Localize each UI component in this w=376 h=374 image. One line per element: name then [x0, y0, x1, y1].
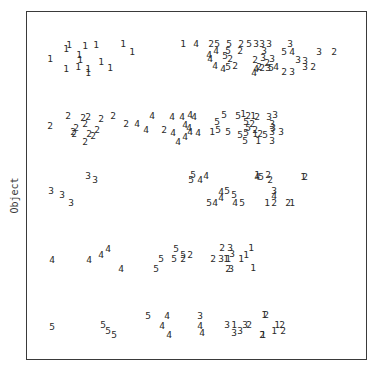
data-point-row-1: 3 [253, 39, 259, 49]
data-point-row-5: 3 [224, 320, 230, 330]
data-point-row-2: 4 [195, 128, 201, 138]
data-point-row-1: 3 [295, 55, 301, 65]
data-point-row-1: 3 [316, 47, 322, 57]
data-point-row-1: 2 [331, 47, 337, 57]
data-point-row-1: 2 [310, 62, 316, 72]
data-point-row-2: 2 [254, 112, 260, 122]
data-point-row-3: 3 [48, 186, 54, 196]
data-point-row-3: 5 [188, 175, 194, 185]
data-point-row-5: 5 [49, 322, 55, 332]
data-point-row-2: 2 [71, 129, 77, 139]
data-point-row-5: 1 [271, 326, 277, 336]
data-point-row-1: 3 [266, 39, 272, 49]
data-point-row-1: 1 [107, 63, 113, 73]
data-point-row-4: 5 [158, 254, 164, 264]
data-point-row-3: 2 [271, 198, 277, 208]
data-point-row-4: 2 [210, 254, 216, 264]
data-point-row-1: 2 [232, 61, 238, 71]
data-point-row-2: 5 [262, 130, 268, 140]
data-point-row-4: 4 [105, 244, 111, 254]
data-point-row-1: 1 [47, 54, 53, 64]
data-point-row-4: 4 [98, 250, 104, 260]
data-point-row-2: 1 [209, 127, 215, 137]
data-point-row-5: 5 [145, 311, 151, 321]
data-point-row-5: 2 [246, 320, 252, 330]
data-point-row-4: 1 [250, 263, 256, 273]
data-point-row-2: 2 [94, 125, 100, 135]
data-point-row-2: 5 [242, 136, 248, 146]
data-point-row-3: 5 [239, 198, 245, 208]
data-point-row-2: 2 [123, 119, 129, 129]
data-point-row-1: 4 [273, 62, 279, 72]
data-point-row-1: 1 [82, 41, 88, 51]
data-point-row-1: 2 [281, 67, 287, 77]
data-point-row-1: 1 [63, 64, 69, 74]
y-axis-label: Object [9, 166, 20, 226]
data-point-row-1: 3 [302, 62, 308, 72]
data-point-row-5: 5 [105, 326, 111, 336]
data-point-row-1: 1 [93, 40, 99, 50]
data-point-row-4: 3 [228, 264, 234, 274]
data-point-row-3: 5 [258, 172, 264, 182]
data-point-row-1: 4 [193, 39, 199, 49]
data-point-row-3: 1 [289, 198, 295, 208]
data-point-row-3: 3 [59, 190, 65, 200]
data-point-row-3: 3 [85, 171, 91, 181]
data-point-row-3: 2 [302, 172, 308, 182]
data-point-row-1: 4 [289, 47, 295, 57]
data-point-row-3: 1 [264, 198, 270, 208]
data-point-row-2: 2 [47, 121, 53, 131]
data-point-row-3: 3 [68, 198, 74, 208]
data-point-row-3: 4 [232, 198, 238, 208]
data-point-row-2: 2 [82, 137, 88, 147]
data-point-row-1: 1 [85, 68, 91, 78]
data-point-row-4: 2 [180, 254, 186, 264]
data-point-row-5: 4 [159, 321, 165, 331]
data-point-row-1: 2 [237, 46, 243, 56]
data-point-row-3: 5 [206, 198, 212, 208]
data-point-row-2: 2 [161, 125, 167, 135]
data-point-row-4: 5 [153, 264, 159, 274]
data-point-row-1: 1 [75, 62, 81, 72]
data-point-row-4: 5 [171, 254, 177, 264]
data-point-row-5: 2 [263, 310, 269, 320]
data-point-row-1: 2 [259, 63, 265, 73]
data-point-row-3: 4 [212, 198, 218, 208]
data-point-row-1: 5 [281, 47, 287, 57]
data-point-row-5: 4 [166, 330, 172, 340]
data-point-row-1: 1 [66, 40, 72, 50]
data-point-row-1: 1 [98, 57, 104, 67]
data-point-row-2: 4 [169, 112, 175, 122]
data-point-row-1: 1 [120, 39, 126, 49]
data-point-row-2: 4 [134, 119, 140, 129]
data-point-row-4: 4 [86, 255, 92, 265]
data-point-row-3: 4 [218, 193, 224, 203]
data-point-row-1: 4 [251, 68, 257, 78]
data-point-row-5: 2 [280, 326, 286, 336]
data-point-row-1: 1 [129, 47, 135, 57]
data-point-row-3: 3 [92, 175, 98, 185]
data-point-row-3: 4 [203, 171, 209, 181]
data-point-row-5: 4 [199, 328, 205, 338]
data-point-row-1: 4 [212, 61, 218, 71]
data-point-row-4: 4 [118, 264, 124, 274]
data-point-row-5: 1 [260, 330, 266, 340]
data-point-row-3: 4 [197, 175, 203, 185]
data-point-row-4: 4 [49, 255, 55, 265]
data-point-row-2: 4 [191, 112, 197, 122]
data-point-row-1: 4 [213, 46, 219, 56]
data-point-row-4: 2 [187, 250, 193, 260]
data-point-row-1: 1 [180, 39, 186, 49]
data-point-row-2: 3 [269, 136, 275, 146]
data-point-row-2: 1 [255, 136, 261, 146]
data-point-row-2: 5 [214, 117, 220, 127]
data-point-row-2: 2 [65, 111, 71, 121]
data-point-row-2: 3 [278, 127, 284, 137]
data-point-row-2: 5 [225, 127, 231, 137]
data-point-row-3: 5 [224, 186, 230, 196]
data-point-row-2: 4 [175, 137, 181, 147]
data-point-row-2: 5 [221, 110, 227, 120]
data-point-row-2: 4 [182, 132, 188, 142]
data-point-row-2: 2 [98, 114, 104, 124]
data-point-row-4: 1 [248, 243, 254, 253]
